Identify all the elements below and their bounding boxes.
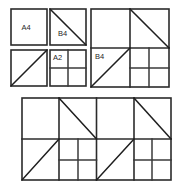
diagram-canvas: A4 B4 A2 [0,0,179,191]
a2-label: A2 [53,53,62,62]
paper-subdivision-diagram: A4 B4 A2 [0,0,179,191]
a2-square: A2 [50,50,86,86]
b4-small-label: B4 [58,29,67,38]
b4-large-label: B4 [95,52,104,61]
bottom-panel [22,98,171,180]
b4-small-square: B4 [50,9,86,45]
a4-label: A4 [21,23,30,32]
a4-square: A4 [11,9,47,45]
b4-large-group: B4 [91,9,169,87]
plain-diagonal-square [11,50,47,86]
